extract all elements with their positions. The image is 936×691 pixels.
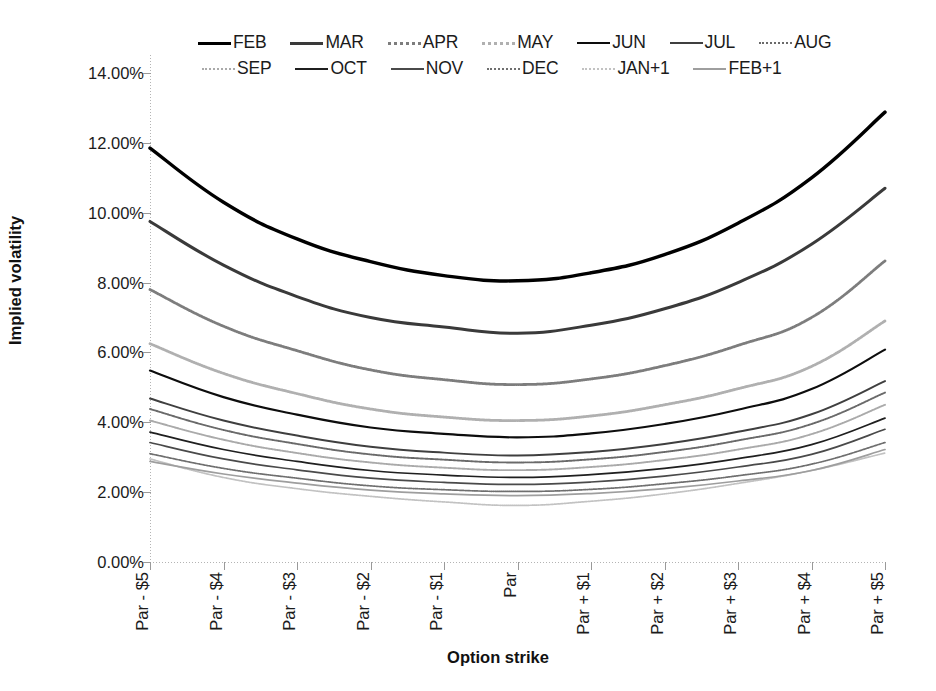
y-tick-mark xyxy=(143,283,151,284)
x-tick-mark xyxy=(371,562,372,570)
x-tick-mark xyxy=(812,562,813,570)
y-tick-mark xyxy=(143,492,151,493)
y-tick-mark xyxy=(143,213,151,214)
x-tick-mark xyxy=(518,562,519,570)
y-tick-mark xyxy=(143,352,151,353)
x-tick-mark xyxy=(444,562,445,570)
x-tick-mark xyxy=(591,562,592,570)
series-line-feb xyxy=(150,112,885,281)
series-line-mar xyxy=(150,188,885,333)
y-tick-mark xyxy=(143,422,151,423)
x-tick-mark xyxy=(150,562,151,570)
x-tick-mark xyxy=(738,562,739,570)
x-tick-mark xyxy=(297,562,298,570)
y-tick-mark xyxy=(143,73,151,74)
chart-container: FEBMARAPRMAYJUNJULAUG SEPOCTNOVDECJAN+1F… xyxy=(0,0,936,691)
x-tick-mark xyxy=(885,562,886,570)
x-tick-mark xyxy=(665,562,666,570)
y-tick-mark xyxy=(143,143,151,144)
x-tick-mark xyxy=(224,562,225,570)
chart-series-layer xyxy=(0,0,936,691)
series-line-aug xyxy=(150,393,885,463)
